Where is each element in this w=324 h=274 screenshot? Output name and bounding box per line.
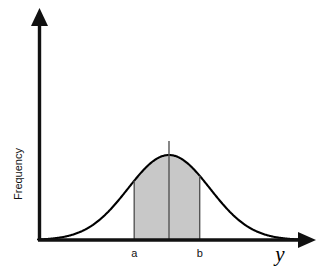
normal-distribution-figure: Frequency y a b: [0, 0, 324, 274]
figure-canvas: Frequency y a b: [0, 0, 324, 274]
y-axis-label: Frequency: [12, 148, 24, 200]
shaded-region-a-to-b: [134, 155, 200, 240]
y-axis-arrow-icon: [31, 8, 48, 26]
x-axis-label: y: [273, 242, 285, 266]
tick-label-b: b: [197, 247, 203, 259]
tick-label-a: a: [131, 247, 138, 259]
x-axis-arrow-icon: [298, 232, 316, 248]
